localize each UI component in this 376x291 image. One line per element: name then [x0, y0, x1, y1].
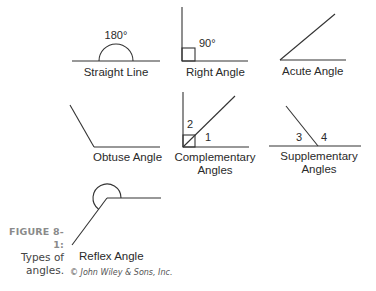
supplementary-label-line2: Angles	[301, 163, 336, 175]
supplementary-angle-4: 4	[321, 131, 327, 143]
acute-angle-label: Acute Angle	[282, 65, 343, 77]
complementary-label-line1: Complementary	[174, 151, 255, 163]
figure-number: FIGURE 8-1:	[0, 225, 64, 251]
supplementary-angles-figure: 3 4 Supplementary Angles	[269, 106, 361, 175]
supplementary-angle-3: 3	[296, 131, 302, 143]
obtuse-angle-label: Obtuse Angle	[93, 151, 162, 163]
right-angle-label: Right Angle	[186, 66, 245, 78]
complementary-angle-1: 1	[205, 131, 211, 143]
straight-measure: 180°	[105, 29, 128, 41]
acute-angle-figure: Acute Angle	[280, 14, 346, 77]
reflex-angle-label: Reflex Angle	[79, 250, 144, 262]
straight-line-figure: 180° Straight Line	[72, 29, 160, 78]
caption-line-2: angles.	[0, 264, 64, 277]
obtuse-angle-figure: Obtuse Angle	[70, 105, 162, 163]
supplementary-label-line1: Supplementary	[280, 150, 358, 162]
copyright-credit: © John Wiley & Sons, Inc.	[70, 268, 172, 277]
complementary-label-line2: Angles	[197, 164, 232, 176]
caption-line-1: Types of	[0, 251, 64, 264]
complementary-angle-2: 2	[187, 118, 193, 130]
right-measure: 90°	[199, 37, 216, 49]
figure-caption: FIGURE 8-1: Types of angles.	[0, 225, 64, 277]
straight-line-label: Straight Line	[84, 66, 149, 78]
right-angle-figure: 90° Right Angle	[182, 7, 248, 78]
complementary-angles-figure: 2 1 Complementary Angles	[174, 92, 255, 176]
reflex-angle-figure: Reflex Angle	[72, 184, 161, 262]
